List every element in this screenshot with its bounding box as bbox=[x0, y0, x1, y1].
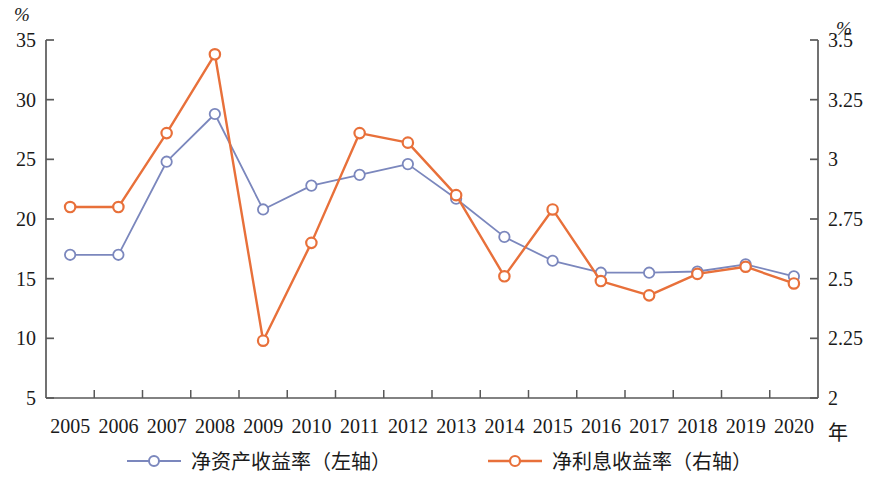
data-point[interactable] bbox=[306, 180, 316, 190]
data-point[interactable] bbox=[65, 250, 75, 260]
legend-label: 净资产收益率（左轴） bbox=[191, 446, 391, 475]
data-point[interactable] bbox=[789, 278, 799, 288]
data-point[interactable] bbox=[161, 157, 171, 167]
data-point[interactable] bbox=[113, 250, 123, 260]
data-point[interactable] bbox=[403, 137, 413, 147]
data-point[interactable] bbox=[740, 262, 750, 272]
legend-label: 净利息收益率（右轴） bbox=[552, 446, 752, 475]
data-point[interactable] bbox=[644, 268, 654, 278]
data-point[interactable] bbox=[354, 170, 364, 180]
data-point[interactable] bbox=[65, 202, 75, 212]
plot-area bbox=[0, 0, 877, 480]
data-point[interactable] bbox=[258, 336, 268, 346]
legend-line-marker-icon bbox=[126, 453, 182, 469]
legend-line-marker-icon bbox=[487, 453, 543, 469]
data-point[interactable] bbox=[644, 290, 654, 300]
data-point[interactable] bbox=[306, 238, 316, 248]
data-point[interactable] bbox=[354, 128, 364, 138]
data-point[interactable] bbox=[161, 128, 171, 138]
data-point[interactable] bbox=[451, 190, 461, 200]
data-point[interactable] bbox=[547, 256, 557, 266]
data-point[interactable] bbox=[403, 159, 413, 169]
legend-item-net-interest-margin[interactable]: 净利息收益率（右轴） bbox=[487, 446, 752, 475]
series-line-net-interest-margin bbox=[70, 54, 794, 340]
data-point[interactable] bbox=[499, 271, 509, 281]
data-point[interactable] bbox=[210, 49, 220, 59]
data-point[interactable] bbox=[547, 204, 557, 214]
chart-container: % % 5101520253035 22.252.52.7533.253.5 2… bbox=[0, 0, 877, 480]
data-point[interactable] bbox=[258, 204, 268, 214]
data-point[interactable] bbox=[113, 202, 123, 212]
data-point[interactable] bbox=[499, 232, 509, 242]
series-line-net-return-on-equity bbox=[70, 114, 794, 276]
data-point[interactable] bbox=[692, 269, 702, 279]
data-point[interactable] bbox=[210, 109, 220, 119]
legend-item-net-return-on-equity[interactable]: 净资产收益率（左轴） bbox=[126, 446, 391, 475]
chart-legend: 净资产收益率（左轴） 净利息收益率（右轴） bbox=[0, 446, 877, 475]
data-point[interactable] bbox=[596, 276, 606, 286]
